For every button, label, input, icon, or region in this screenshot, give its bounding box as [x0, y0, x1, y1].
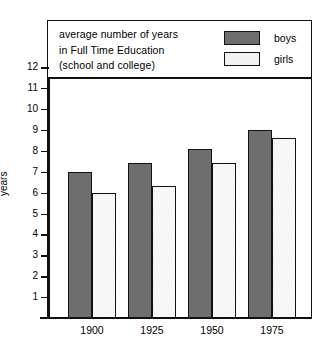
- bar-boys-1975: [248, 130, 272, 318]
- x-tick-label-1950: 1950: [182, 324, 242, 336]
- bar-boys-1925: [128, 163, 152, 318]
- bar-girls-1975: [272, 138, 296, 318]
- bar-girls-1950: [212, 163, 236, 318]
- bar-girls-1925: [152, 186, 176, 318]
- bar-boys-1950: [188, 149, 212, 318]
- x-tick-label-1975: 1975: [242, 324, 302, 336]
- bar-boys-1900: [68, 172, 92, 318]
- bar-chart: average number of years in Full Time Edu…: [0, 0, 329, 363]
- x-tick-label-1900: 1900: [62, 324, 122, 336]
- bar-girls-1900: [92, 193, 116, 318]
- x-tick-label-1925: 1925: [122, 324, 182, 336]
- bars-layer: [0, 0, 329, 363]
